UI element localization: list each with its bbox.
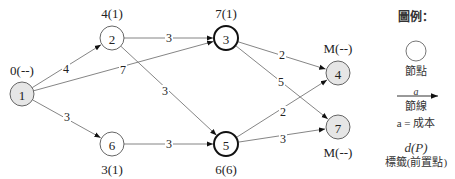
edge-cost-label: 3 xyxy=(63,111,71,123)
edge-cost-label: 3 xyxy=(165,32,173,44)
node-id-label: 4 xyxy=(335,68,342,81)
node-id-label: 3 xyxy=(223,33,230,46)
nodes-layer xyxy=(10,26,350,156)
node-tag-label: 4(1) xyxy=(101,7,123,20)
legend-node-label: 節點 xyxy=(405,66,427,77)
legend: 圖例： 節點 a 節線 a = 成本 d(P) 標籤(前置點) xyxy=(380,0,455,179)
edge-cost-label: 2 xyxy=(279,106,287,118)
edge-cost-label: 5 xyxy=(277,76,285,88)
node-tag-label: 0(--) xyxy=(10,64,34,77)
edge-cost-label: 3 xyxy=(165,138,173,150)
node-tag-label: M(--) xyxy=(324,146,353,159)
node-id-label: 1 xyxy=(19,89,26,102)
edge-cost-label: 4 xyxy=(62,63,70,75)
node-tag-label: M(--) xyxy=(324,42,353,55)
legend-edge-label: 節線 xyxy=(405,101,427,112)
node-tag-label: 6(6) xyxy=(215,163,237,176)
legend-tag-symbol: d(P) xyxy=(404,141,427,154)
node-tag-label: 3(1) xyxy=(101,163,123,176)
node-tag-label: 7(1) xyxy=(215,7,237,20)
legend-cost-note: a = 成本 xyxy=(397,118,436,129)
edge-cost-label: 2 xyxy=(278,49,286,61)
legend-edge-symbol: a xyxy=(414,87,419,97)
edge-cost-label: 3 xyxy=(279,133,287,145)
node-id-label: 2 xyxy=(109,33,116,46)
node-id-label: 7 xyxy=(335,122,342,135)
legend-title: 圖例： xyxy=(398,11,434,23)
node-id-label: 6 xyxy=(109,139,116,152)
node-id-label: 5 xyxy=(223,139,230,152)
edge-cost-label: 3 xyxy=(161,85,169,97)
legend-tag-label: 標籤(前置點) xyxy=(385,157,447,168)
edge-cost-label: 7 xyxy=(119,64,127,76)
